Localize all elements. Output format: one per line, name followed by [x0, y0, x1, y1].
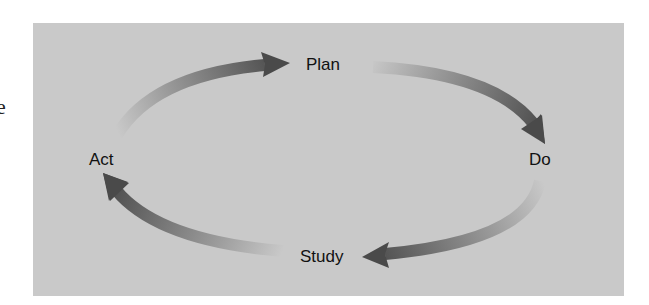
arrow-plan-to-do	[373, 67, 545, 144]
arrow-act-to-plan	[117, 52, 290, 135]
margin-text-fragment: e	[0, 96, 6, 118]
node-label-do: Do	[529, 151, 551, 168]
node-label-plan: Plan	[306, 56, 340, 73]
node-label-act: Act	[89, 151, 114, 168]
arrow-study-to-act	[103, 173, 283, 251]
pdsa-cycle-diagram: Plan Do Study Act	[33, 23, 624, 296]
arrow-do-to-study	[362, 181, 540, 268]
node-label-study: Study	[300, 248, 343, 265]
